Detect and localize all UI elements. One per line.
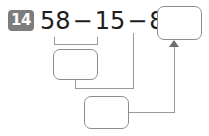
operand-2: 15 [95,7,126,35]
operand-1: 58 [40,7,71,35]
problem-number-badge: 14 [8,10,34,31]
minus-operator-2: − [125,7,149,35]
minus-operator-1: − [71,7,95,35]
connector-line-bottom-right [129,112,175,113]
connector-line-bottom-up [174,46,175,113]
answer-box-partial-1[interactable] [53,49,98,80]
connector-line-from-operand-8 [133,33,134,88]
answer-box-final[interactable] [157,6,202,40]
answer-box-partial-2[interactable] [84,96,129,129]
grouping-bracket-icon [54,37,98,45]
arrow-up-icon [169,40,179,47]
connector-line-middle-right [75,88,134,89]
math-worksheet-problem: 14 58 − 15 − 8 = [0,0,209,136]
